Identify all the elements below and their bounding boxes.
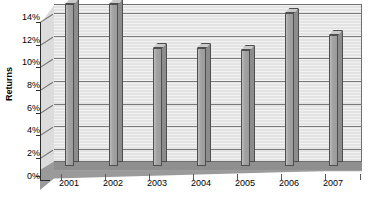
- y-tick-label: 14%: [6, 13, 40, 22]
- x-tick-label-2006: 2006: [267, 178, 311, 188]
- x-tick-label-2002: 2002: [91, 178, 135, 188]
- y-tick-label: 4%: [6, 126, 40, 135]
- bar-front-face: [285, 13, 294, 166]
- y-axis-tick: [36, 90, 41, 91]
- plot-floor-top: [54, 161, 362, 170]
- bar-front-face: [109, 4, 118, 166]
- y-axis-tick: [36, 45, 41, 46]
- returns-bar-chart: Returns 14% 12% 10% 8% 6% 4% 2% 0%: [0, 0, 368, 197]
- y-axis-tick: [36, 22, 41, 23]
- y-tick-label: 6%: [6, 104, 40, 113]
- y-tick-label: 10%: [6, 58, 40, 67]
- bar-front-face: [65, 4, 74, 166]
- y-axis-tick: [36, 135, 41, 136]
- y-tick-label: 8%: [6, 81, 40, 90]
- x-tick-label-2004: 2004: [179, 178, 223, 188]
- y-axis-tick: [36, 113, 41, 114]
- y-axis-tick: [36, 67, 41, 68]
- bar-side-face: [118, 0, 123, 162]
- gridline-12: [54, 36, 362, 37]
- bar-front-face: [197, 48, 206, 166]
- bar-front-face: [329, 35, 338, 166]
- x-tick-label-2001: 2001: [47, 178, 91, 188]
- bar-side-face: [162, 44, 167, 162]
- bar-side-face: [294, 9, 299, 162]
- x-axis-tick: [360, 174, 361, 180]
- x-tick-label-2005: 2005: [223, 178, 267, 188]
- plot-side-wall: [40, 4, 55, 190]
- bar-side-face: [206, 44, 211, 162]
- x-tick-label-2007: 2007: [311, 178, 355, 188]
- y-tick-label: 12%: [6, 36, 40, 45]
- y-axis-tick: [36, 176, 41, 177]
- y-axis-tick-labels: 14% 12% 10% 8% 6% 4% 2% 0%: [0, 0, 40, 197]
- bar-side-face: [338, 31, 343, 162]
- y-tick-label: 0%: [6, 172, 40, 181]
- bar-side-face: [250, 46, 255, 162]
- y-tick-label: 2%: [6, 149, 40, 158]
- bar-side-face: [74, 0, 79, 162]
- bar-front-face: [153, 48, 162, 166]
- y-axis-tick: [36, 158, 41, 159]
- gridline-14: [54, 13, 362, 14]
- bar-front-face: [241, 50, 250, 166]
- x-tick-label-2003: 2003: [135, 178, 179, 188]
- plot-area: [40, 4, 362, 190]
